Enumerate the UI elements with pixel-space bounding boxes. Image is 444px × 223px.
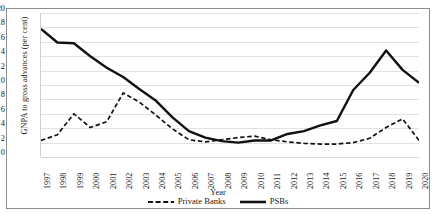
y-tick-label: 2 xyxy=(0,135,5,143)
y-tick-label: 14 xyxy=(0,48,5,56)
y-tick-label: 6 xyxy=(0,106,5,114)
legend-swatch-icon xyxy=(240,198,266,206)
legend-item-private-banks[interactable]: Private Banks xyxy=(148,197,226,206)
y-tick-label: 10 xyxy=(0,77,5,85)
y-axis-tick-labels: 20181614121086420 xyxy=(0,9,5,153)
y-axis-title: GNPA to gross advances (per cent) xyxy=(20,6,29,146)
y-tick-label: 8 xyxy=(0,91,5,99)
series-line-private-banks xyxy=(41,93,419,144)
y-tick-label: 0 xyxy=(0,149,5,157)
legend-label: Private Banks xyxy=(178,197,226,206)
series-lines xyxy=(41,13,419,157)
y-tick-label: 18 xyxy=(0,19,5,27)
chart-figure: GNPA to gross advances (per cent) 201816… xyxy=(6,8,430,209)
legend-label: PSBs xyxy=(270,197,289,206)
legend-item-psbs[interactable]: PSBs xyxy=(240,197,289,206)
legend-swatch-icon xyxy=(148,198,174,206)
y-tick-label: 12 xyxy=(0,63,5,71)
gridline xyxy=(41,157,419,158)
plot-area xyxy=(41,13,419,157)
y-tick-label: 4 xyxy=(0,120,5,128)
chart-legend: Private BanksPSBs xyxy=(7,197,429,206)
series-svg xyxy=(41,13,419,157)
y-tick-label: 16 xyxy=(0,34,5,42)
y-tick-label: 20 xyxy=(0,5,5,13)
